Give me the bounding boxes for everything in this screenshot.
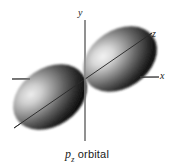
- x-axis-label: x: [160, 71, 164, 81]
- caption-subscript: z: [71, 155, 74, 164]
- y-axis-label: y: [78, 8, 82, 18]
- figure-caption: pz orbital: [0, 147, 174, 163]
- caption-text: orbital: [74, 148, 109, 160]
- orbital-figure: y x z pz orbital: [0, 0, 174, 166]
- orbital-illustration: [0, 0, 174, 166]
- z-axis-label: z: [152, 29, 156, 39]
